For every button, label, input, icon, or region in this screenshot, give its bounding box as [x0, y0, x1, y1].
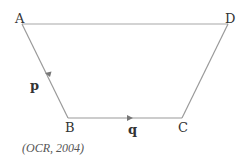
vertex-label-b: B [65, 121, 75, 134]
vertex-label-d: D [225, 12, 235, 25]
vector-label-q: q [128, 123, 137, 136]
trapezium-diagram: A D p B q C (OCR, 2004) [0, 0, 243, 159]
vector-label-p: p [30, 79, 39, 92]
source-caption: (OCR, 2004) [22, 141, 84, 156]
vertex-label-c: C [178, 121, 188, 134]
arrow-q-icon [127, 115, 133, 121]
edge-ab [22, 24, 68, 118]
vertex-label-a: A [15, 12, 24, 25]
edge-cd [182, 24, 228, 118]
